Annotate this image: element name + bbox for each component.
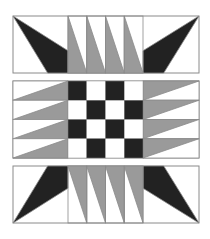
checker-cell — [124, 120, 143, 139]
checker-cell — [106, 100, 125, 119]
checker-cell — [87, 81, 106, 100]
checker-cell — [106, 81, 125, 100]
checker-cell — [124, 81, 143, 100]
checker-cell — [106, 120, 125, 139]
checker-cell — [124, 139, 143, 158]
checker-cell — [124, 100, 143, 119]
checker-cell — [68, 120, 87, 139]
checker-cell — [68, 139, 87, 158]
checker-cell — [87, 139, 106, 158]
checker-cell — [106, 139, 125, 158]
checker-cell — [87, 100, 106, 119]
checker-cell — [68, 81, 87, 100]
checker-cell — [68, 100, 87, 119]
checker-cell — [87, 120, 106, 139]
quilt-pattern — [0, 0, 210, 239]
